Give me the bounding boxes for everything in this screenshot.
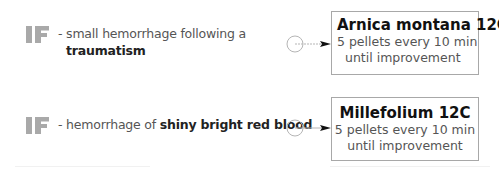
remedy-duration: until improvement — [332, 138, 478, 154]
condition-prefix: - hemorrhage of — [58, 117, 156, 132]
divider — [330, 166, 490, 167]
remedy-name: Millefolium 12C — [332, 104, 478, 122]
divider — [15, 166, 150, 167]
remedy-dose: 5 pellets every 10 min — [332, 122, 478, 138]
remedy-box: Arnica montana 12C 5 pellets every 10 mi… — [331, 11, 479, 75]
if-icon — [26, 117, 50, 134]
condition-text: - small hemorrhage following a traumatis… — [58, 25, 278, 59]
remedy-name: Arnica montana 12C — [337, 16, 478, 34]
remedy-dose: 5 pellets every 10 min — [337, 34, 478, 50]
connector-arrow-icon — [284, 34, 332, 54]
if-icon — [26, 26, 50, 43]
remedy-duration: until improvement — [337, 50, 478, 66]
condition-text: - hemorrhage of shiny bright red blood — [58, 116, 288, 133]
condition-prefix: - small hemorrhage following a — [58, 26, 246, 41]
connector-arrow-icon — [284, 118, 332, 138]
condition-emphasis: traumatism — [66, 43, 146, 58]
remedy-box: Millefolium 12C 5 pellets every 10 min u… — [331, 97, 479, 161]
